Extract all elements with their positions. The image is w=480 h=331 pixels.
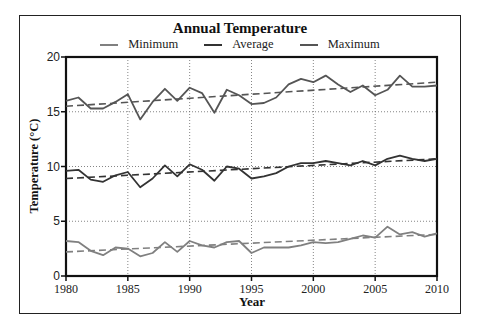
y-tick-label: 15: [47, 105, 61, 119]
series-line-maximum: [66, 76, 437, 120]
y-tick-label: 20: [47, 50, 61, 64]
y-tick-label: 5: [53, 214, 60, 228]
y-tick-label: 10: [47, 160, 61, 174]
plot-area: 051015201980198519901995200020052010: [0, 0, 480, 331]
y-tick-label: 0: [53, 269, 60, 283]
x-axis-label: Year: [0, 294, 480, 310]
y-axis-label: Temperature (°C): [27, 119, 42, 214]
